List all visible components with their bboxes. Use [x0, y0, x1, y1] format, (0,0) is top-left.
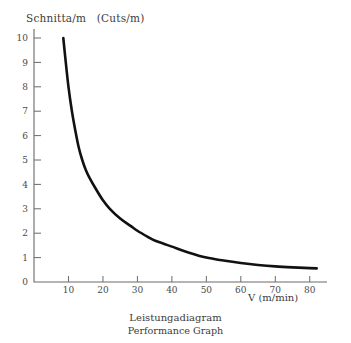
y-tick-label: 5: [22, 155, 28, 165]
caption-german: Leistungadiagram: [0, 311, 351, 324]
y-axis-ticks: 012345678910: [17, 33, 41, 287]
x-tick-label: 50: [201, 285, 213, 295]
figure-caption: Leistungadiagram Performance Graph: [0, 311, 351, 337]
y-tick-label: 9: [22, 58, 28, 68]
y-tick-label: 7: [22, 106, 28, 116]
y-tick-label: 10: [17, 33, 29, 43]
y-tick-label: 4: [22, 180, 28, 190]
y-tick-label: 0: [22, 277, 28, 287]
y-tick-label: 1: [22, 253, 28, 263]
x-tick-label: 80: [304, 285, 316, 295]
performance-graph-figure: Schnitta/m (Cuts/m) V (m/min) 0123456789…: [0, 0, 351, 343]
y-tick-label: 6: [22, 131, 28, 141]
x-tick-label: 70: [270, 285, 282, 295]
y-tick-label: 3: [22, 204, 28, 214]
y-tick-label: 2: [22, 228, 28, 238]
data-curve: [63, 38, 316, 268]
caption-english: Performance Graph: [0, 324, 351, 337]
x-tick-label: 40: [166, 285, 178, 295]
x-tick-label: 30: [132, 285, 144, 295]
plot-area: 012345678910 1020304050607080: [0, 0, 351, 343]
x-tick-label: 60: [235, 285, 247, 295]
y-tick-label: 8: [22, 82, 28, 92]
x-axis-ticks: 1020304050607080: [63, 276, 316, 295]
x-tick-label: 10: [63, 285, 75, 295]
axis-lines: [34, 29, 327, 282]
x-tick-label: 20: [97, 285, 109, 295]
